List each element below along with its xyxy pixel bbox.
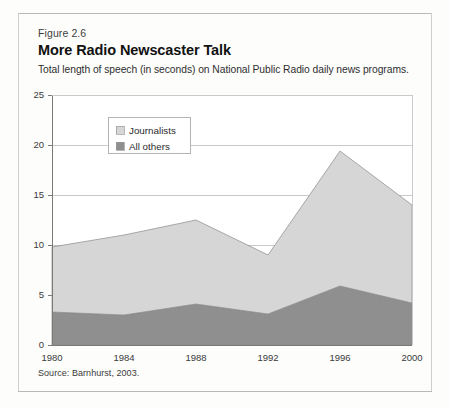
y-axis-tick-label: 0 — [39, 339, 44, 350]
chart-svg: 0510152025198019841988199219962000Journa… — [0, 0, 450, 408]
y-axis-tick-label: 20 — [33, 139, 44, 150]
x-axis-tick-label: 1980 — [41, 352, 62, 363]
y-axis-tick-label: 10 — [33, 239, 44, 250]
y-axis-tick-label: 15 — [33, 189, 44, 200]
stacked-area-chart: 0510152025198019841988199219962000Journa… — [0, 0, 450, 408]
legend-swatch-all-others — [116, 142, 124, 150]
legend-label-all-others: All others — [129, 141, 170, 152]
legend-swatch-journalists — [116, 126, 124, 134]
x-axis-tick-label: 1988 — [185, 352, 206, 363]
legend-label-journalists: Journalists — [129, 125, 176, 136]
source-note: Source: Barnhurst, 2003. — [38, 368, 139, 378]
y-axis-tick-label: 25 — [33, 89, 44, 100]
x-axis-tick-label: 1984 — [113, 352, 134, 363]
x-axis-tick-label: 1996 — [329, 352, 350, 363]
x-axis-tick-label: 1992 — [257, 352, 278, 363]
x-axis-tick-label: 2000 — [401, 352, 422, 363]
figure-page: Figure 2.6 More Radio Newscaster Talk To… — [0, 0, 450, 408]
y-axis-tick-label: 5 — [39, 289, 44, 300]
